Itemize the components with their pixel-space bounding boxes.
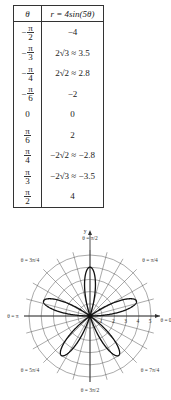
theta-header: θ (14, 6, 42, 22)
radial-tick-label: 4 (136, 318, 139, 324)
theta-cell: −π2 (14, 22, 42, 43)
label-theta-pi: θ = π (7, 313, 18, 319)
table-row: π62 (14, 125, 104, 146)
r-cell: −2√3 ≈ −3.5 (42, 166, 104, 187)
r-cell: −2 (42, 84, 104, 105)
angle-labels: 12345θ = π/2yθ = π/4θ = 0θ = 7π/4θ = 3π/… (7, 228, 171, 393)
theta-cell: −π4 (14, 63, 42, 84)
y-axis-label: y (84, 228, 87, 234)
theta-cell: π3 (14, 166, 42, 187)
polar-rose-plot: 12345θ = π/2yθ = π/4θ = 0θ = 7π/4θ = 3π/… (0, 225, 171, 400)
table-row: −π42√2 ≈ 2.8 (14, 63, 104, 84)
values-table: θ r = 4sin(5θ) −π2−4−π32√3 ≈ 3.5−π42√2 ≈… (13, 5, 104, 208)
r-cell: 2√3 ≈ 3.5 (42, 43, 104, 64)
radial-tick-label: 1 (100, 318, 103, 324)
table-row: −π32√3 ≈ 3.5 (14, 43, 104, 64)
label-theta-0: θ = 0 (160, 317, 171, 323)
table-row: −π2−4 (14, 22, 104, 43)
r-cell: 4 (42, 186, 104, 207)
label-theta-3pi-over-2: θ = 3π/2 (81, 387, 100, 393)
r-cell: 2√2 ≈ 2.8 (42, 63, 104, 84)
radial-tick-label: 5 (149, 318, 152, 324)
r-cell: 2 (42, 125, 104, 146)
theta-cell: −π3 (14, 43, 42, 64)
radial-tick-label: 3 (124, 318, 127, 324)
label-theta-pi-over-4: θ = π/4 (142, 257, 158, 263)
axes (24, 230, 160, 382)
table-row: π4−2√2 ≈ −2.8 (14, 145, 104, 166)
table-row: 00 (14, 104, 104, 125)
theta-cell: π2 (14, 186, 42, 207)
label-theta-pi-over-2: θ = π/2 (82, 235, 98, 241)
table-row: π24 (14, 186, 104, 207)
label-theta-3pi-over-4: θ = 3π/4 (21, 257, 40, 263)
r-cell: −4 (42, 22, 104, 43)
theta-cell: 0 (14, 104, 42, 125)
theta-cell: π6 (14, 125, 42, 146)
r-cell: −2√2 ≈ −2.8 (42, 145, 104, 166)
theta-cell: −π6 (14, 84, 42, 105)
label-theta-7pi-over-4: θ = 7π/4 (141, 367, 160, 373)
x-axis-arrow-icon (155, 314, 160, 318)
table-row: π3−2√3 ≈ −3.5 (14, 166, 104, 187)
r-cell: 0 (42, 104, 104, 125)
table-row: −π6−2 (14, 84, 104, 105)
r-header: r = 4sin(5θ) (42, 6, 104, 22)
radial-tick-label: 2 (112, 318, 115, 324)
label-theta-5pi-over-4: θ = 5π/4 (21, 367, 40, 373)
theta-cell: π4 (14, 145, 42, 166)
